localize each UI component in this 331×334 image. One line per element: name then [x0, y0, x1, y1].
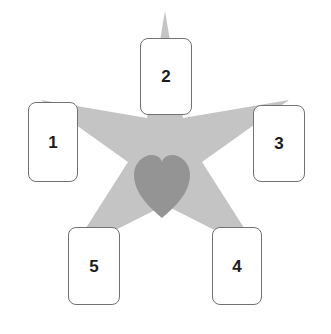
numbered-card-1[interactable]: 1 [28, 102, 78, 182]
diagram-canvas: 1 2 3 4 5 [0, 0, 331, 334]
card-label: 3 [274, 135, 283, 152]
card-label: 1 [48, 134, 57, 151]
card-label: 2 [161, 68, 170, 85]
numbered-card-5[interactable]: 5 [68, 227, 120, 305]
numbered-card-4[interactable]: 4 [212, 227, 262, 305]
card-label: 5 [89, 258, 98, 275]
card-label: 4 [232, 258, 241, 275]
numbered-card-2[interactable]: 2 [140, 38, 192, 115]
numbered-card-3[interactable]: 3 [253, 105, 305, 182]
